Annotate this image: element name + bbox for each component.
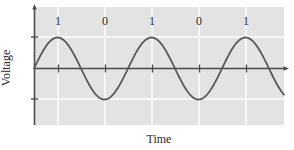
bit-label-5: 1	[243, 14, 249, 29]
y-axis-title: Voltage	[0, 50, 14, 86]
bit-label-4: 0	[196, 14, 202, 29]
x-axis	[34, 65, 289, 73]
bit-label-1: 1	[55, 14, 61, 29]
bit-label-3: 1	[149, 14, 155, 29]
axes-and-curve	[0, 0, 294, 150]
bit-label-2: 0	[102, 14, 108, 29]
x-axis-title: Time	[147, 132, 172, 147]
figure-sine-wave-voltage-time: 1 0 1 0 1 Voltage Time	[0, 0, 294, 150]
y-axis	[31, 4, 38, 125]
